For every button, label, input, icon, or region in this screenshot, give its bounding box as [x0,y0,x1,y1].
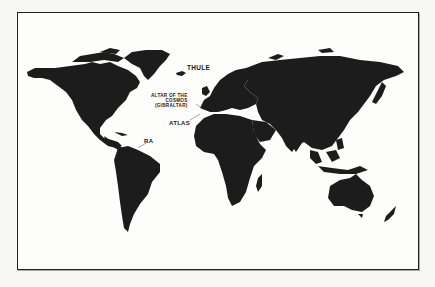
label-altar-of-the-cosmos: ALTAR OF THE COSMOS (GIBRALTAR) [151,93,188,108]
label-atlas: ATLAS [169,120,190,126]
label-ra: RA [144,138,153,144]
south-america [114,146,160,232]
label-altar-line-3: (GIBRALTAR) [151,103,188,108]
world-map [0,0,435,287]
label-thule: THULE [187,65,210,72]
australia [328,174,374,212]
